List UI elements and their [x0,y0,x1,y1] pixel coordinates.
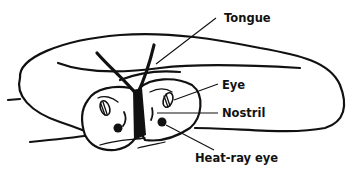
label-eye: Eye [222,78,245,92]
label-tongue: Tongue [224,11,271,25]
label-nostril: Nostril [222,106,265,120]
tongue-leader [156,18,216,64]
snake-head [82,79,200,150]
label-heat-ray-eye: Heat-ray eye [195,151,278,165]
snake-diagram: Tongue Eye Nostril Heat-ray eye [0,0,352,177]
